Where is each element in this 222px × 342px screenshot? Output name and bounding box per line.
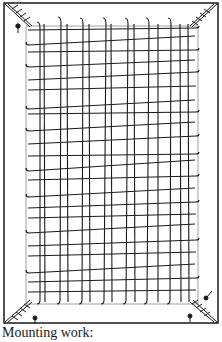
horizontal-threads bbox=[26, 26, 199, 292]
mounting-diagram bbox=[0, 0, 222, 328]
vertical-threads bbox=[37, 17, 189, 304]
figure-caption: Mounting work: bbox=[2, 325, 93, 341]
